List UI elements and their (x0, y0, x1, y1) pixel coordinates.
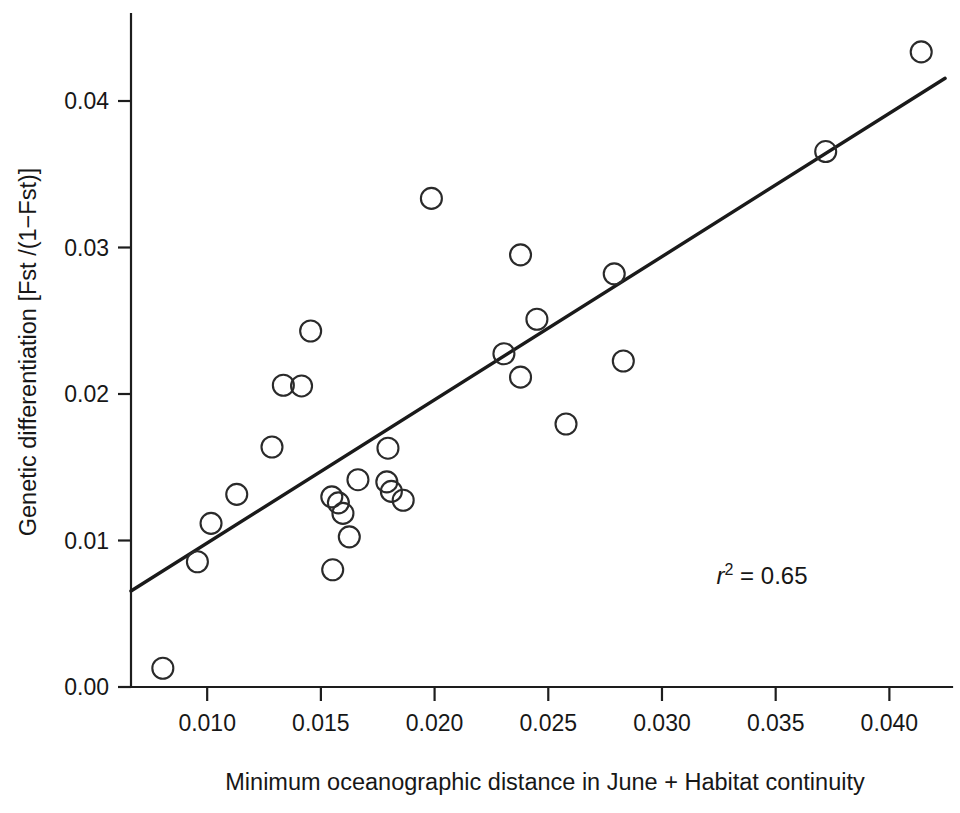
data-point (187, 551, 208, 572)
y-tick-label: 0.01 (64, 528, 109, 554)
y-axis-ticks: 0.000.010.020.030.04 (64, 88, 131, 700)
x-tick-label: 0.020 (406, 710, 464, 736)
regression-fit-line (131, 78, 945, 591)
data-point (226, 484, 247, 505)
y-tick-label: 0.03 (64, 235, 109, 261)
data-point (261, 437, 282, 458)
y-tick-label: 0.00 (64, 674, 109, 700)
data-point (556, 414, 577, 435)
plot-canvas: 0.000.010.020.030.04 0.0100.0150.0200.02… (0, 0, 960, 813)
x-axis-ticks: 0.0100.0150.0200.0250.0300.0350.040 (178, 687, 918, 736)
data-point (613, 351, 634, 372)
data-point (322, 559, 343, 580)
data-point (300, 321, 321, 342)
data-points (152, 41, 931, 678)
data-point (604, 263, 625, 284)
x-axis-title: Minimum oceanographic distance in June +… (225, 769, 865, 795)
x-tick-label: 0.025 (519, 710, 577, 736)
data-point (493, 343, 514, 364)
x-tick-label: 0.035 (747, 710, 805, 736)
x-tick-label: 0.015 (292, 710, 350, 736)
y-axis-title: Genetic differentiation [Fst /(1−Fst)] (15, 168, 41, 537)
data-point (377, 438, 398, 459)
x-tick-label: 0.030 (633, 710, 691, 736)
r-squared-annotation: r2 = 0.65 (717, 561, 808, 589)
y-tick-label: 0.04 (64, 88, 109, 114)
x-tick-label: 0.040 (861, 710, 919, 736)
scatter-plot-figure: 0.000.010.020.030.04 0.0100.0150.0200.02… (0, 0, 960, 813)
data-point (510, 367, 531, 388)
axes (131, 14, 952, 687)
data-point (152, 658, 173, 679)
regression-line (131, 78, 945, 591)
data-point (339, 526, 360, 547)
y-tick-label: 0.02 (64, 381, 109, 407)
data-point (201, 513, 222, 534)
data-point (510, 244, 531, 265)
data-point (911, 41, 932, 62)
data-point (421, 188, 442, 209)
data-point (347, 469, 368, 490)
x-tick-label: 0.010 (178, 710, 236, 736)
data-point (526, 309, 547, 330)
